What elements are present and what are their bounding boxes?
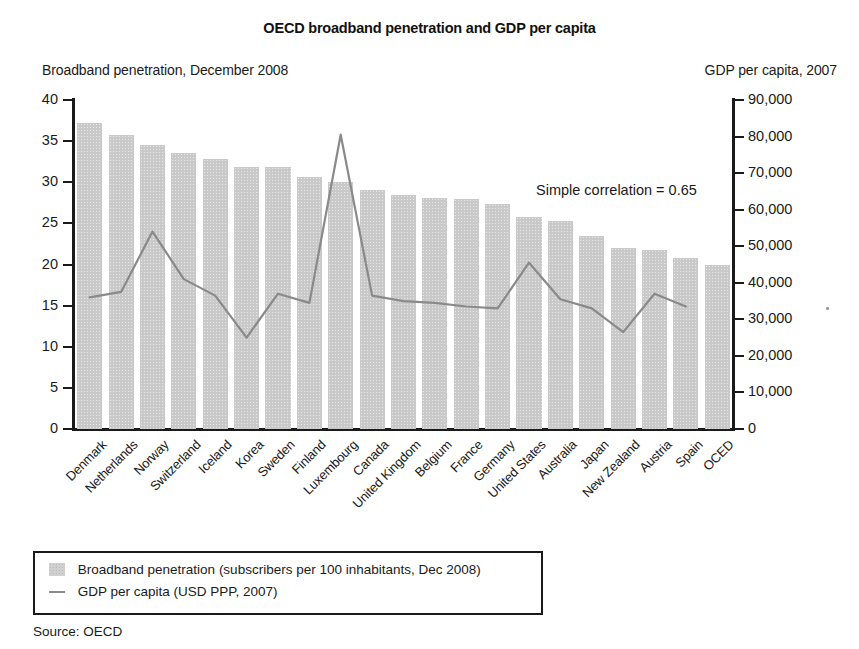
right-axis-tick-label: 0 [748,421,756,436]
left-axis-tick [63,99,73,101]
legend-item-gdp-label: GDP per capita (USD PPP, 2007) [78,584,278,599]
right-axis-tick [734,136,744,138]
left-axis-tick-label: 20 [8,257,58,272]
legend-line-swatch-icon [49,585,65,598]
correlation-annotation: Simple correlation = 0.65 [536,182,697,198]
left-axis-tick [63,264,73,266]
left-axis-tick-label: 30 [8,174,58,189]
gdp-line-series [74,100,733,429]
right-axis-tick [734,355,744,357]
left-axis-tick [63,222,73,224]
left-axis-tick-label: 5 [8,380,58,395]
stray-mark [826,307,829,310]
legend: Broadband penetration (subscribers per 1… [33,551,543,615]
legend-bar-swatch-icon [49,563,65,576]
right-axis-tick-label: 20,000 [748,348,792,363]
left-axis-tick [63,305,73,307]
left-axis-tick-label: 25 [8,215,58,230]
left-axis-tick [63,428,73,430]
right-axis-tick [734,428,744,430]
plot-area [74,100,733,429]
left-axis-tick-label: 15 [8,298,58,313]
right-axis-tick [734,172,744,174]
right-axis-tick-label: 90,000 [748,92,792,107]
right-axis-tick-label: 50,000 [748,238,792,253]
left-axis-tick-label: 40 [8,92,58,107]
right-axis-tick-label: 70,000 [748,165,792,180]
source-note: Source: OECD [33,624,122,639]
legend-item-gdp: GDP per capita (USD PPP, 2007) [49,584,278,599]
right-axis-tick [734,391,744,393]
left-axis-tick-label: 0 [8,421,58,436]
right-axis-tick-label: 60,000 [748,202,792,217]
left-axis-tick [63,181,73,183]
right-axis-tick [734,99,744,101]
left-axis-tick [63,140,73,142]
left-axis-tick [63,387,73,389]
figure: OECD broadband penetration and GDP per c… [0,0,859,649]
right-axis-tick [734,318,744,320]
left-axis-tick [63,346,73,348]
right-axis-caption: GDP per capita, 2007 [705,62,837,78]
right-axis-tick-label: 80,000 [748,129,792,144]
left-axis-tick-label: 10 [8,339,58,354]
left-axis-tick-label: 35 [8,133,58,148]
page-title: OECD broadband penetration and GDP per c… [0,20,859,36]
left-axis-caption: Broadband penetration, December 2008 [42,62,288,78]
right-axis-tick [734,282,744,284]
right-axis-tick-label: 30,000 [748,311,792,326]
legend-item-broadband: Broadband penetration (subscribers per 1… [49,562,481,577]
right-axis-tick-label: 10,000 [748,384,792,399]
legend-item-broadband-label: Broadband penetration (subscribers per 1… [78,562,481,577]
right-axis-tick [734,209,744,211]
right-axis-tick [734,245,744,247]
right-axis-tick-label: 40,000 [748,275,792,290]
